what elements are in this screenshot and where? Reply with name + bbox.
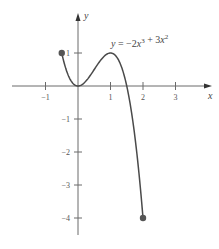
- y-axis-arrow-icon: [76, 13, 81, 21]
- x-axis-arrow-icon: [204, 84, 212, 89]
- x-tick-label: 3: [174, 93, 178, 102]
- endpoints: [59, 50, 147, 221]
- endpoint-dot: [140, 215, 146, 221]
- x-axis-label: x: [207, 90, 213, 101]
- y-tick-label: −1: [61, 115, 70, 124]
- cubic-curve: [62, 53, 143, 218]
- y-tick-label: −4: [61, 214, 70, 223]
- y-axis-label: y: [83, 10, 89, 21]
- y-tick-label: 1: [66, 49, 70, 58]
- y-tick-label: −2: [61, 148, 70, 157]
- curve-layer: [62, 53, 143, 218]
- function-graph: −11231−1−2−3−4 y = −2x3 + 3x2 x y: [0, 0, 219, 249]
- axis-ticks: −11231−1−2−3−4: [41, 49, 177, 223]
- x-tick-label: 1: [109, 93, 113, 102]
- equation-label: y = −2x3 + 3x2: [110, 33, 169, 49]
- endpoint-dot: [59, 50, 65, 56]
- x-tick-label: 2: [141, 93, 145, 102]
- y-tick-label: −3: [61, 181, 70, 190]
- x-tick-label: −1: [41, 93, 50, 102]
